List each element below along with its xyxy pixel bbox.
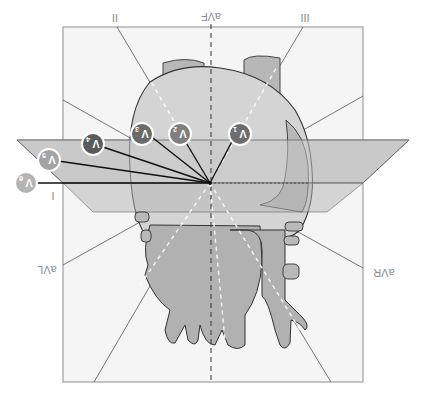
lead-I-label: I xyxy=(51,190,54,202)
svg-text:V: V xyxy=(92,138,100,150)
svg-text:3: 3 xyxy=(135,126,139,133)
lead-v3-marker: V 3 xyxy=(131,123,153,145)
lead-III-label: III xyxy=(300,12,309,24)
svg-text:1: 1 xyxy=(233,126,237,133)
lead-aVL-label: aVL xyxy=(37,264,57,276)
heart-center-point xyxy=(208,181,212,185)
svg-text:V: V xyxy=(25,177,33,189)
lead-v6-marker: V 6 xyxy=(15,172,37,194)
lead-aVR-label: aVR xyxy=(373,267,394,279)
svg-text:V: V xyxy=(141,128,149,140)
lead-aVF-label: aVF xyxy=(201,11,221,23)
lead-v5-marker: V 5 xyxy=(38,149,60,171)
svg-text:V: V xyxy=(239,128,247,140)
svg-text:5: 5 xyxy=(42,152,46,159)
vessel-tree-bottom xyxy=(145,225,307,349)
svg-text:V: V xyxy=(179,128,187,140)
lead-II-label: II xyxy=(112,12,118,24)
svg-text:2: 2 xyxy=(173,126,177,133)
lead-v4-marker: V 4 xyxy=(82,133,104,155)
ecg-lead-diagram: V 1 V 2 V 3 V 4 V 5 V 6 II aVF III I aVL… xyxy=(0,0,434,395)
lead-v1-marker: V 1 xyxy=(229,123,251,145)
lead-v2-marker: V 2 xyxy=(169,123,191,145)
svg-text:V: V xyxy=(48,154,56,166)
svg-text:4: 4 xyxy=(86,136,90,143)
svg-text:6: 6 xyxy=(19,175,23,182)
diagram-canvas: V 1 V 2 V 3 V 4 V 5 V 6 II aVF III I aVL… xyxy=(0,0,434,395)
